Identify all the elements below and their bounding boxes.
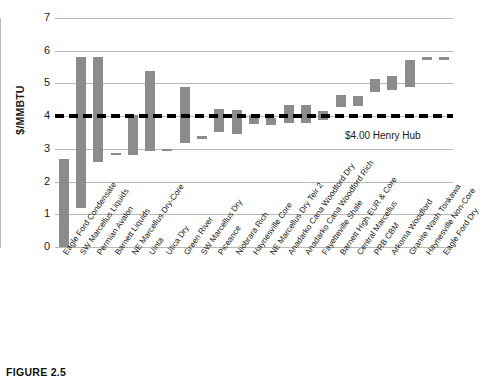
figure-caption: FIGURE 2.5 — [6, 366, 66, 377]
gridline-2 — [55, 182, 453, 183]
y-axis-title: $/MMBTU — [14, 70, 26, 150]
bar-0 — [59, 159, 69, 247]
henry-hub-annotation: $4.00 Henry Hub — [345, 130, 421, 141]
bar-16 — [336, 95, 346, 107]
bar-12 — [266, 118, 276, 126]
bar-17 — [353, 96, 363, 106]
bar-6 — [162, 149, 172, 151]
y-tick-2: 2 — [28, 176, 50, 187]
bar-5 — [145, 71, 155, 151]
bar-8 — [197, 136, 207, 139]
gridline-6 — [55, 51, 453, 52]
y-axis-line — [0, 18, 1, 248]
bar-20 — [405, 60, 415, 87]
bar-2 — [93, 57, 103, 162]
y-tick-6: 6 — [28, 45, 50, 56]
bar-18 — [370, 79, 380, 92]
bar-19 — [387, 76, 397, 90]
y-tick-0: 0 — [28, 241, 50, 252]
bar-1 — [76, 57, 86, 207]
y-tick-4: 4 — [28, 110, 50, 121]
gridline-0 — [55, 247, 453, 248]
bar-9 — [214, 109, 224, 133]
bar-4 — [128, 115, 138, 156]
y-axis-tick-labels: 01234567 — [26, 0, 50, 377]
y-tick-1: 1 — [28, 208, 50, 219]
gridline-7 — [55, 18, 453, 19]
bar-3 — [111, 153, 121, 156]
gridline-1 — [55, 214, 453, 215]
y-tick-7: 7 — [28, 12, 50, 23]
gridline-3 — [55, 149, 453, 150]
bar-21 — [422, 57, 432, 60]
y-tick-5: 5 — [28, 77, 50, 88]
bar-22 — [439, 57, 449, 60]
y-tick-3: 3 — [28, 143, 50, 154]
henry-hub-reference-line — [55, 114, 453, 118]
